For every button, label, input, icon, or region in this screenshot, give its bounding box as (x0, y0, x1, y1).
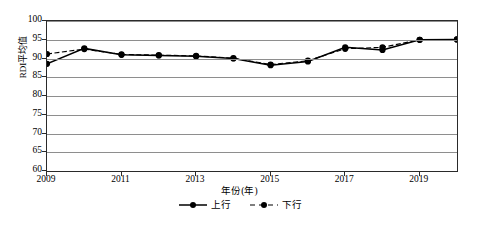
legend-item-down: 下行 (249, 200, 302, 210)
x-axis-title: 年份(年) (0, 186, 479, 196)
x-tick-mark (270, 172, 271, 176)
legend-swatch-icon (249, 200, 279, 210)
x-tick-mark (419, 172, 420, 176)
x-tick-mark (195, 172, 196, 176)
x-tick-mark (121, 172, 122, 176)
chart-figure: RDI平均值 6065707580859095100 2009201120132… (0, 0, 479, 228)
legend-label: 上行 (211, 200, 231, 210)
x-tick-mark (344, 172, 345, 176)
legend-item-up: 上行 (178, 200, 231, 210)
legend-swatch-icon (178, 200, 208, 210)
chart-legend: 上行下行 (0, 200, 479, 210)
x-tick-mark (46, 172, 47, 176)
legend-label: 下行 (282, 200, 302, 210)
